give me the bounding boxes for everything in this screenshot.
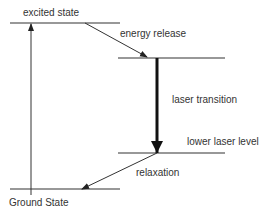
relaxation-label: relaxation xyxy=(136,168,179,178)
ground-state-label: Ground State xyxy=(9,198,68,208)
energy-release-label: energy release xyxy=(120,29,186,39)
lower-laser-level-label: lower laser level xyxy=(187,137,259,147)
laser-transition-label: laser transition xyxy=(172,95,237,105)
excited-state-label: excited state xyxy=(23,8,79,18)
